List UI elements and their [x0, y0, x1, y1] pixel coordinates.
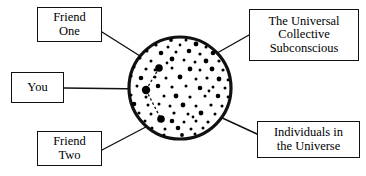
individual-dot [139, 76, 144, 81]
individual-dot [199, 69, 202, 72]
label-box-friend-two[interactable]: Friend Two [37, 131, 102, 166]
individual-dot [172, 111, 175, 114]
individual-dot [165, 77, 168, 80]
individual-dot [185, 39, 188, 42]
individual-dot [202, 127, 205, 130]
individual-dot [195, 78, 198, 81]
individual-dot [164, 128, 167, 131]
individual-dot [195, 120, 198, 123]
individual-dot [198, 86, 203, 91]
individual-dot [146, 50, 149, 53]
individual-dot [194, 42, 199, 47]
individual-dot [204, 95, 207, 98]
individual-dot [209, 103, 212, 106]
individual-dot [183, 121, 186, 124]
individual-dot [156, 84, 161, 89]
individual-dot [170, 119, 175, 124]
individual-dot [159, 51, 164, 56]
individual-dot [221, 68, 224, 71]
individual-dot [214, 113, 217, 116]
individual-dot [192, 116, 195, 119]
individual-dot [144, 67, 147, 70]
individual-dot [130, 94, 133, 97]
individual-dot [167, 46, 170, 49]
friend-one-marker [155, 64, 163, 72]
individual-dot [190, 128, 193, 131]
individual-dot [176, 126, 181, 131]
individual-dot [227, 79, 230, 82]
individual-dot [129, 74, 132, 77]
label-text-universal-collective-subconscious: The Universal Collective Subconscious [250, 15, 358, 55]
individual-dot [174, 94, 179, 99]
individual-dot [211, 51, 216, 56]
individual-dot [169, 105, 172, 108]
individual-dot [151, 127, 154, 130]
individual-dot [188, 67, 193, 72]
individual-dot [183, 59, 186, 62]
individual-dot [216, 94, 221, 99]
individual-dot [154, 43, 157, 46]
individual-dot [178, 75, 183, 80]
individual-dot [206, 120, 209, 123]
label-text-you: You [12, 81, 63, 94]
label-box-friend-one[interactable]: Friend One [37, 7, 102, 42]
individual-dot [195, 105, 198, 108]
individual-dot [205, 76, 208, 79]
individual-dot [187, 49, 192, 54]
individual-dot [138, 112, 141, 115]
friend-two-marker [157, 115, 165, 123]
individual-dot [188, 95, 191, 98]
individual-dot [132, 102, 137, 107]
label-text-friend-two: Friend Two [38, 135, 101, 162]
individual-dot [170, 57, 175, 62]
individual-dot [224, 87, 227, 90]
individual-dot [204, 59, 209, 64]
individual-dot [169, 38, 173, 42]
individual-dot [227, 96, 230, 99]
individual-dot [175, 51, 178, 54]
individual-dot [150, 113, 153, 116]
individual-dot [136, 85, 139, 88]
individual-dot [133, 66, 136, 69]
diagram-canvas: Friend One You Friend Two The Universal … [0, 0, 366, 176]
individual-dot [210, 67, 215, 72]
individual-dot [163, 134, 166, 137]
label-text-individuals-in-the-universe: Individuals in the Universe [258, 126, 359, 153]
individual-dot [208, 90, 211, 93]
individual-dot [205, 46, 208, 49]
individual-dot [163, 95, 166, 98]
individual-dot [179, 44, 182, 47]
individual-dot [166, 62, 169, 65]
individual-dot [217, 77, 222, 82]
individual-dot [187, 113, 190, 116]
individual-dot [194, 61, 197, 64]
label-box-individuals-in-the-universe[interactable]: Individuals in the Universe [257, 121, 360, 158]
individual-dot [171, 67, 174, 70]
individual-dot [185, 85, 188, 88]
label-text-friend-one: Friend One [38, 11, 101, 38]
individual-dot [139, 57, 142, 60]
individual-dot [194, 133, 197, 136]
individual-dot [150, 60, 153, 63]
individual-dot [144, 120, 147, 123]
individual-dot [212, 86, 215, 89]
individual-dot [170, 85, 173, 88]
individual-dot [181, 103, 186, 108]
label-box-you[interactable]: You [11, 72, 64, 103]
individual-dot [199, 111, 204, 116]
individual-dot [158, 103, 161, 106]
label-box-universal-collective-subconscious[interactable]: The Universal Collective Subconscious [249, 9, 359, 61]
individual-dot [147, 104, 150, 107]
you-marker [142, 86, 150, 94]
individual-dot [198, 52, 201, 55]
individual-dot [145, 96, 148, 99]
individual-dot [221, 105, 224, 108]
individual-dot [217, 59, 220, 62]
individual-dot [180, 133, 184, 137]
